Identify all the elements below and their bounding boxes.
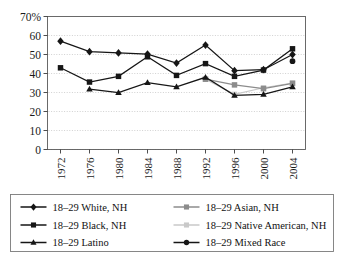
data-point <box>31 222 36 227</box>
x-tick-label: 1988 <box>171 157 183 180</box>
data-point <box>58 65 63 70</box>
data-point <box>173 59 180 67</box>
data-point <box>86 86 93 92</box>
y-tick-label: 50 <box>30 49 42 61</box>
data-point <box>30 203 36 210</box>
data-point <box>144 79 151 85</box>
x-tick-label: 1996 <box>229 157 241 180</box>
legend-label: 18–29 Mixed Race <box>206 237 286 248</box>
legend-item[interactable]: 18–29 Asian, NH <box>174 202 280 213</box>
legend-label: 18–29 White, NH <box>53 202 128 213</box>
x-tick-label: 1980 <box>113 157 125 180</box>
line-chart: 70%6050403020100197219761980198419881992… <box>0 0 344 259</box>
legend-item[interactable]: 18–29 Mixed Race <box>174 237 286 248</box>
y-tick-label: 60 <box>30 30 42 42</box>
legend-item[interactable]: 18–29 Latino <box>21 237 109 248</box>
legend-label: 18–29 Native American, NH <box>206 220 327 231</box>
x-tick-label: 2004 <box>287 157 299 180</box>
data-point <box>290 58 296 64</box>
data-point <box>174 73 179 78</box>
data-point <box>184 204 189 209</box>
y-tick-label: 30 <box>30 87 42 99</box>
legend-label: 18–29 Latino <box>53 237 109 248</box>
legend-label: 18–29 Black, NH <box>53 220 127 231</box>
chart-container: 70%6050403020100197219761980198419881992… <box>0 0 344 259</box>
data-point <box>232 82 237 87</box>
legend-item[interactable]: 18–29 Black, NH <box>21 220 127 231</box>
x-tick-label: 1972 <box>55 158 67 180</box>
x-tick-label: 1992 <box>200 158 212 180</box>
data-point <box>184 222 189 227</box>
x-tick-label: 2000 <box>258 157 270 180</box>
y-tick-label: 40 <box>30 68 42 80</box>
series-5 <box>290 58 296 64</box>
data-point <box>116 74 121 79</box>
legend-item[interactable]: 18–29 White, NH <box>21 202 128 213</box>
data-point <box>261 86 266 91</box>
grid-lines <box>49 36 305 150</box>
data-point <box>115 49 122 57</box>
data-point <box>289 51 296 59</box>
y-axis: 70%6050403020100 <box>20 11 48 156</box>
y-tick-label: 20 <box>30 106 42 118</box>
data-point <box>57 37 64 45</box>
plot-frame <box>48 17 306 150</box>
data-point <box>184 240 189 245</box>
series-line <box>206 79 293 89</box>
x-tick-label: 1976 <box>84 157 96 180</box>
data-point <box>203 61 208 66</box>
y-tick-label: 10 <box>30 125 42 137</box>
x-axis: 197219761980198419881992199620002004 <box>55 150 299 180</box>
x-tick-label: 1984 <box>142 157 154 180</box>
legend-item[interactable]: 18–29 Native American, NH <box>174 220 327 231</box>
series-0 <box>57 37 296 74</box>
y-tick-label: 0 <box>35 144 41 156</box>
data-point <box>87 79 92 84</box>
data-point <box>86 48 93 56</box>
legend-label: 18–29 Asian, NH <box>206 202 280 213</box>
y-tick-label: 70% <box>20 11 42 23</box>
